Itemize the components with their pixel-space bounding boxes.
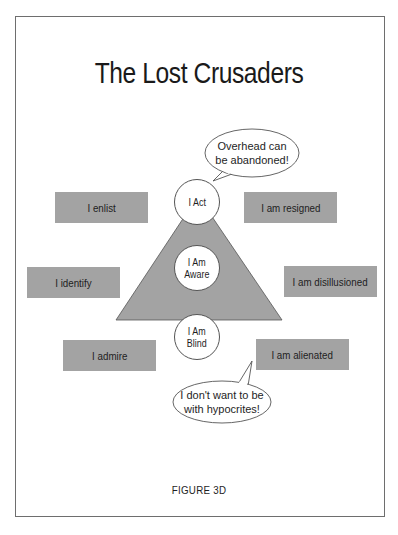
- box-i-enlist: I enlist: [55, 192, 148, 223]
- circle-i-act: I Act: [174, 179, 220, 225]
- box-i-am-alienated: I am alienated: [256, 339, 349, 370]
- box-i-identify: I identify: [27, 267, 120, 298]
- box-label: I am disillusioned: [293, 276, 368, 288]
- box-i-am-disillusioned: I am disillusioned: [284, 266, 377, 297]
- figure-caption: FIGURE 3D: [0, 484, 398, 496]
- circle-label: I Am Aware: [184, 256, 209, 280]
- box-label: I enlist: [87, 202, 115, 214]
- circle-i-am-blind: I Am Blind: [174, 314, 220, 360]
- box-i-admire: I admire: [63, 340, 156, 371]
- box-label: I identify: [55, 277, 91, 289]
- speech-bubble-top-text: Overhead can be abandoned!: [205, 139, 299, 167]
- box-label: I am alienated: [272, 349, 333, 361]
- circle-label: I Am Blind: [187, 325, 207, 349]
- figure-caption-text: FIGURE 3D: [172, 484, 226, 496]
- box-label: I am resigned: [261, 202, 320, 214]
- speech-bubble-bottom-text: I don't want to be with hypocrites!: [173, 388, 271, 416]
- circle-label: I Act: [188, 196, 205, 208]
- box-label: I admire: [92, 350, 127, 362]
- box-i-am-resigned: I am resigned: [244, 192, 337, 223]
- circle-i-am-aware: I Am Aware: [174, 245, 220, 291]
